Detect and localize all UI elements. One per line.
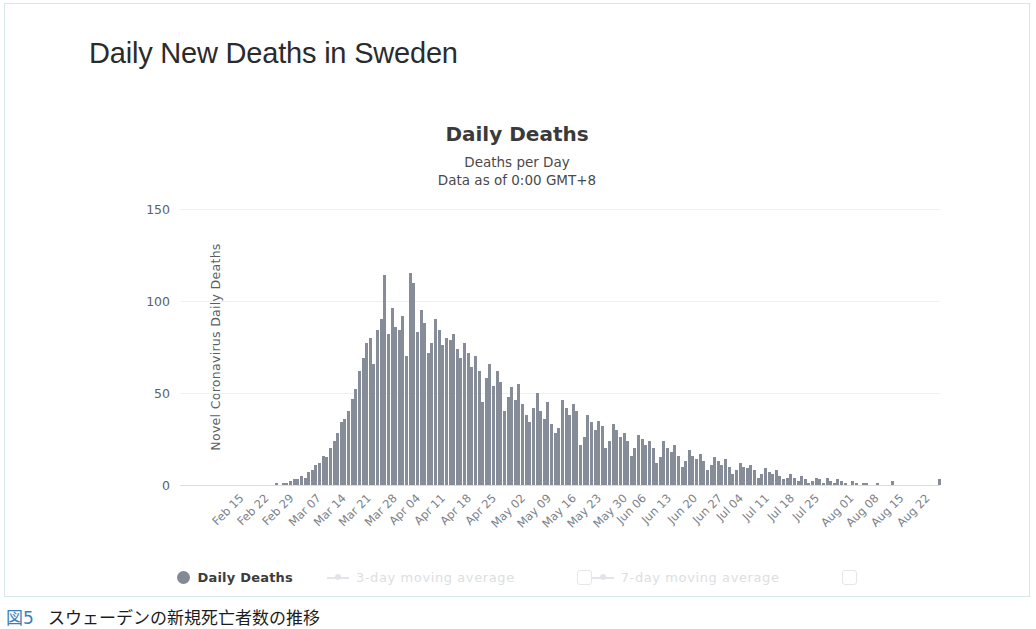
- bar[interactable]: [510, 387, 513, 485]
- bar[interactable]: [811, 481, 814, 485]
- bar[interactable]: [778, 476, 781, 485]
- bar[interactable]: [666, 448, 669, 485]
- bar[interactable]: [503, 411, 506, 485]
- bar[interactable]: [771, 474, 774, 485]
- bar[interactable]: [800, 476, 803, 485]
- bar[interactable]: [539, 411, 542, 485]
- bar[interactable]: [742, 467, 745, 485]
- bar[interactable]: [329, 448, 332, 485]
- bar[interactable]: [369, 338, 372, 485]
- bar[interactable]: [829, 481, 832, 485]
- bar[interactable]: [325, 457, 328, 485]
- bar[interactable]: [550, 424, 553, 485]
- bar[interactable]: [398, 330, 401, 485]
- bar[interactable]: [347, 411, 350, 485]
- bar[interactable]: [517, 384, 520, 485]
- bar[interactable]: [644, 445, 647, 485]
- bar[interactable]: [757, 478, 760, 485]
- bar[interactable]: [619, 437, 622, 485]
- bar[interactable]: [768, 472, 771, 485]
- bar[interactable]: [565, 408, 568, 485]
- bar[interactable]: [401, 316, 404, 485]
- bar[interactable]: [793, 478, 796, 485]
- bar[interactable]: [739, 463, 742, 485]
- bar[interactable]: [365, 343, 368, 485]
- bar[interactable]: [488, 364, 491, 485]
- bar[interactable]: [862, 483, 865, 485]
- bar[interactable]: [594, 430, 597, 485]
- bar[interactable]: [391, 308, 394, 485]
- bar[interactable]: [702, 461, 705, 485]
- bar[interactable]: [514, 400, 517, 485]
- bar[interactable]: [753, 470, 756, 485]
- bar[interactable]: [532, 408, 535, 485]
- bar[interactable]: [731, 474, 734, 485]
- bar[interactable]: [318, 463, 321, 485]
- bar[interactable]: [590, 422, 593, 485]
- bar[interactable]: [543, 419, 546, 485]
- bar[interactable]: [380, 319, 383, 485]
- bar[interactable]: [818, 479, 821, 485]
- bar[interactable]: [728, 467, 731, 485]
- bar[interactable]: [706, 470, 709, 485]
- bar[interactable]: [659, 457, 662, 485]
- bar[interactable]: [470, 367, 473, 485]
- bar[interactable]: [804, 479, 807, 485]
- bar[interactable]: [456, 349, 459, 485]
- bar[interactable]: [844, 483, 847, 485]
- bar[interactable]: [492, 386, 495, 485]
- bar[interactable]: [536, 393, 539, 485]
- bar[interactable]: [358, 371, 361, 485]
- bar[interactable]: [807, 483, 810, 485]
- bar[interactable]: [775, 470, 778, 485]
- bar[interactable]: [282, 483, 285, 485]
- bar[interactable]: [441, 345, 444, 485]
- bar[interactable]: [445, 338, 448, 485]
- bar[interactable]: [865, 483, 868, 485]
- bar[interactable]: [691, 456, 694, 485]
- bar[interactable]: [575, 411, 578, 485]
- bar[interactable]: [833, 483, 836, 485]
- bar[interactable]: [412, 283, 415, 485]
- chart-legend[interactable]: Daily Deaths3-day moving average7-day mo…: [5, 570, 1029, 585]
- bar[interactable]: [467, 353, 470, 485]
- bar[interactable]: [746, 468, 749, 485]
- bar[interactable]: [521, 404, 524, 485]
- legend-checkbox[interactable]: [577, 570, 592, 585]
- bar[interactable]: [300, 476, 303, 485]
- bar[interactable]: [525, 415, 528, 485]
- bar[interactable]: [343, 419, 346, 485]
- bar[interactable]: [275, 483, 278, 485]
- bar[interactable]: [815, 478, 818, 485]
- bar[interactable]: [557, 428, 560, 485]
- bar[interactable]: [684, 461, 687, 485]
- bar[interactable]: [383, 275, 386, 485]
- bar[interactable]: [354, 389, 357, 485]
- bar[interactable]: [376, 330, 379, 485]
- bar[interactable]: [340, 422, 343, 485]
- bar[interactable]: [307, 472, 310, 485]
- bar[interactable]: [416, 332, 419, 485]
- bar[interactable]: [797, 481, 800, 485]
- bar[interactable]: [760, 474, 763, 485]
- bar[interactable]: [855, 483, 858, 485]
- bar[interactable]: [786, 478, 789, 485]
- bar[interactable]: [434, 319, 437, 485]
- bar[interactable]: [322, 456, 325, 485]
- bar[interactable]: [427, 353, 430, 485]
- bar[interactable]: [876, 483, 879, 485]
- bar[interactable]: [438, 330, 441, 485]
- bar[interactable]: [688, 450, 691, 485]
- bar[interactable]: [724, 459, 727, 485]
- bar[interactable]: [481, 402, 484, 485]
- bar[interactable]: [333, 441, 336, 485]
- bar[interactable]: [496, 371, 499, 485]
- bar[interactable]: [713, 457, 716, 485]
- bar[interactable]: [826, 478, 829, 485]
- bar[interactable]: [615, 430, 618, 485]
- bar[interactable]: [296, 479, 299, 485]
- bar[interactable]: [648, 441, 651, 485]
- bar[interactable]: [285, 483, 288, 485]
- bar[interactable]: [717, 461, 720, 485]
- legend-item-2[interactable]: 3-day moving average: [327, 570, 515, 585]
